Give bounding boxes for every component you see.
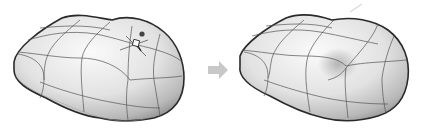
motion-trace <box>350 4 362 12</box>
arrow-right-icon <box>206 60 230 80</box>
after-surface-panel <box>228 0 428 133</box>
before-surface-panel <box>0 0 200 133</box>
surface-before-illustration <box>0 0 200 133</box>
surface-after-illustration <box>228 0 428 133</box>
